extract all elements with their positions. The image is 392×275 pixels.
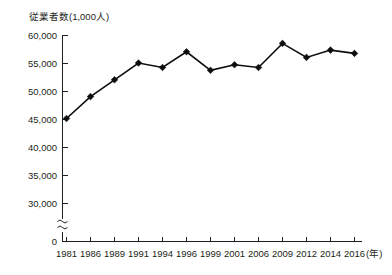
y-tick-label-60000: 60,000 bbox=[28, 30, 57, 41]
y-tick-label-50000: 50,000 bbox=[28, 86, 57, 97]
x-tick-label-2016: 2016 bbox=[344, 248, 365, 259]
x-axis-ticks bbox=[67, 237, 355, 242]
x-tick-label-1999: 1999 bbox=[200, 248, 221, 259]
y-tick-label-30000: 30,000 bbox=[28, 198, 57, 209]
x-tick-label-2001: 2001 bbox=[224, 248, 245, 259]
y-tick-label-45000: 45,000 bbox=[28, 114, 57, 125]
data-point-2001 bbox=[231, 61, 238, 68]
y-tick-label-0: 0 bbox=[52, 236, 57, 247]
y-axis-ticks bbox=[63, 36, 68, 242]
series-markers bbox=[63, 40, 358, 122]
line-chart: 従業者数(1,000人) 60,000 55,000 50,000 45,000… bbox=[0, 0, 392, 275]
x-tick-label-1981: 1981 bbox=[56, 248, 77, 259]
series-line-employees bbox=[67, 43, 355, 118]
axis-break-icon bbox=[58, 220, 68, 229]
y-tick-label-55000: 55,000 bbox=[28, 58, 57, 69]
x-tick-label-2012: 2012 bbox=[296, 248, 317, 259]
x-tick-label-1986: 1986 bbox=[80, 248, 101, 259]
x-tick-label-1994: 1994 bbox=[152, 248, 173, 259]
data-point-2014 bbox=[327, 47, 334, 54]
x-tick-label-2009: 2009 bbox=[272, 248, 293, 259]
x-tick-label-2014: 2014 bbox=[320, 248, 341, 259]
x-axis-unit-label: (年) bbox=[366, 248, 382, 259]
data-point-2016 bbox=[351, 50, 358, 57]
x-tick-label-1991: 1991 bbox=[128, 248, 149, 259]
y-tick-label-35000: 35,000 bbox=[28, 170, 57, 181]
data-point-2012 bbox=[303, 54, 310, 61]
x-tick-label-1989: 1989 bbox=[104, 248, 125, 259]
x-tick-label-1996: 1996 bbox=[176, 248, 197, 259]
x-tick-label-2006: 2006 bbox=[248, 248, 269, 259]
y-axis-title: 従業者数(1,000人) bbox=[29, 11, 109, 22]
chart-page: 従業者数(1,000人) 60,000 55,000 50,000 45,000… bbox=[0, 0, 392, 275]
y-tick-label-40000: 40,000 bbox=[28, 142, 57, 153]
